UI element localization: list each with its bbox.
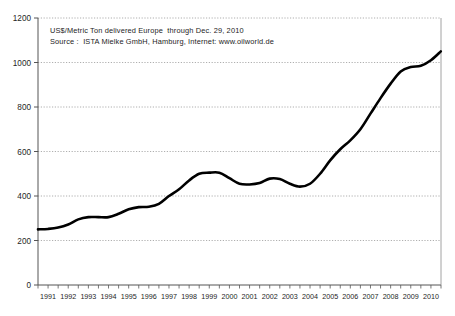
x-axis-tick-label: 2009: [403, 292, 419, 301]
x-axis-tick-label: 1992: [60, 292, 76, 301]
x-axis-tick-label: 1993: [80, 292, 96, 301]
x-axis-tick-label: 2003: [282, 292, 298, 301]
gridlines-group: [38, 18, 441, 241]
y-axis-tick-label: 800: [17, 103, 31, 112]
y-axis-tick-label: 200: [17, 237, 31, 246]
x-axis-tick-label: 1997: [161, 292, 177, 301]
x-axis-tick-label: 1998: [181, 292, 197, 301]
x-axis-tick-label: 2006: [342, 292, 358, 301]
x-axis-tick-label: 2008: [383, 292, 399, 301]
line-chart: 020040060080010001200 199119921993199419…: [0, 0, 455, 316]
y-axis-tick-label: 0: [26, 281, 31, 290]
chart-annotation-line-1: US$/Metric Ton delivered Europe through …: [50, 26, 244, 35]
x-axis-tick-label: 1994: [101, 292, 117, 301]
price-line-path: [38, 51, 441, 229]
x-axis-ticks-group: 1991199219931994199519961997199819992000…: [38, 285, 441, 301]
x-axis-tick-label: 2010: [423, 292, 439, 301]
chart-annotation-line-2: Source : ISTA Mielke GmbH, Hamburg, Inte…: [50, 37, 274, 46]
x-axis-tick-label: 2002: [262, 292, 278, 301]
y-axis-tick-label: 400: [17, 192, 31, 201]
y-axis-tick-label: 600: [17, 148, 31, 157]
x-axis-tick-label: 2000: [221, 292, 237, 301]
x-axis-tick-label: 1991: [40, 292, 56, 301]
y-axis-tick-label: 1000: [13, 59, 32, 68]
y-axis-ticks-group: 020040060080010001200: [13, 14, 38, 290]
x-axis-tick-label: 2004: [302, 292, 318, 301]
x-axis-tick-label: 1995: [121, 292, 137, 301]
y-axis-tick-label: 1200: [13, 14, 32, 23]
x-axis-tick-label: 2001: [242, 292, 258, 301]
x-axis-tick-label: 1996: [141, 292, 157, 301]
x-axis-tick-label: 1999: [201, 292, 217, 301]
x-axis-tick-label: 2005: [322, 292, 338, 301]
chart-container: US$/Metric Ton delivered Europe through …: [0, 0, 455, 316]
x-axis-tick-label: 2007: [362, 292, 378, 301]
data-series-group: [38, 51, 441, 229]
